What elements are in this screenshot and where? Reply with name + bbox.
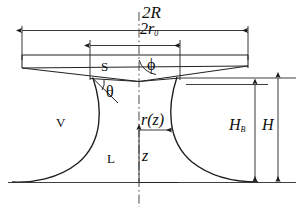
label-2r0: 2r0 (140, 21, 158, 38)
throat-seats (90, 78, 180, 82)
label-rz: r(z) (141, 112, 164, 128)
label-z: z (142, 148, 148, 164)
solid-plate (22, 55, 248, 82)
label-vapor-V: V (56, 116, 65, 129)
label-2r0-subscript: 0 (154, 29, 158, 38)
label-solid-S: S (101, 60, 108, 73)
figure-canvas: 2R 2r0 S ϕ θ V L r(z) z HB H (0, 0, 306, 213)
label-theta-angle: θ (106, 84, 114, 100)
label-phi-angle: ϕ (147, 57, 155, 73)
label-liquid-L: L (107, 152, 115, 165)
meniscus-left (12, 78, 99, 182)
meniscus-profiles (12, 77, 258, 182)
label-H: H (262, 117, 274, 133)
theta-angle-arc (102, 80, 104, 91)
label-HB-subscript: B (241, 125, 246, 134)
label-HB: HB (229, 117, 245, 134)
label-2R: 2R (142, 4, 161, 21)
